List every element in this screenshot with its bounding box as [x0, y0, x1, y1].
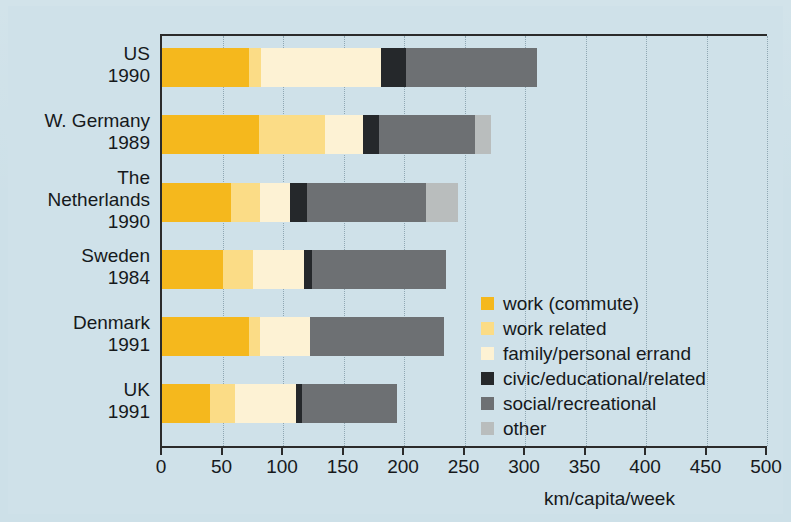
- bar-segment: [379, 115, 476, 154]
- legend-swatch: [481, 347, 494, 360]
- x-tick-label: 300: [508, 456, 540, 478]
- bar-segment: [302, 384, 396, 423]
- bar-segment: [307, 183, 426, 222]
- x-tick-label: 0: [156, 456, 167, 478]
- bar-segment: [249, 317, 260, 356]
- bar-segment: [260, 183, 290, 222]
- x-tick: [342, 446, 344, 455]
- bar-segment: [475, 115, 491, 154]
- legend-item: social/recreational: [481, 392, 706, 415]
- bar-segment: [363, 115, 379, 154]
- x-tick: [523, 446, 525, 455]
- x-tick: [584, 446, 586, 455]
- x-tick: [281, 446, 283, 455]
- x-tick: [160, 446, 162, 455]
- legend-swatch: [481, 322, 494, 335]
- x-tick-label: 150: [327, 456, 359, 478]
- bar-segment: [290, 183, 307, 222]
- legend-item: family/personal errand: [481, 342, 706, 365]
- bar-segment: [162, 115, 259, 154]
- bar-segment: [304, 250, 312, 289]
- bar-segment: [253, 250, 304, 289]
- x-tick: [644, 446, 646, 455]
- figure-page: US1990W. Germany1989TheNetherlands1990Sw…: [0, 0, 791, 522]
- x-tick-label: 500: [750, 456, 782, 478]
- category-label-line: Netherlands: [5, 189, 150, 211]
- x-tick-label: 50: [211, 456, 232, 478]
- chart-figure: US1990W. Germany1989TheNetherlands1990Sw…: [8, 6, 783, 514]
- bar-segment: [210, 384, 234, 423]
- x-tick-label: 200: [387, 456, 419, 478]
- category-label-line: 1990: [5, 65, 150, 87]
- bar-segment: [223, 250, 253, 289]
- x-tick-label: 400: [629, 456, 661, 478]
- bar-segment: [260, 317, 310, 356]
- category-label-line: 1990: [5, 211, 150, 233]
- category-label-line: 1991: [5, 401, 150, 423]
- category-label: W. Germany1989: [5, 110, 150, 154]
- x-tick: [221, 446, 223, 455]
- bar-segment: [162, 317, 249, 356]
- bar-segment: [426, 183, 459, 222]
- legend-label: other: [503, 418, 546, 440]
- category-label: US1990: [5, 43, 150, 87]
- legend-swatch: [481, 297, 494, 310]
- bar-segment: [162, 183, 231, 222]
- legend-item: work related: [481, 317, 706, 340]
- category-label-line: US: [5, 43, 150, 65]
- x-tick: [463, 446, 465, 455]
- bar-segment: [312, 250, 446, 289]
- legend-label: civic/educational/related: [503, 368, 706, 390]
- gridline-500: [767, 36, 769, 446]
- legend-label: family/personal errand: [503, 343, 691, 365]
- bar-segment: [261, 48, 381, 87]
- gridline-200: [404, 36, 406, 446]
- category-label-line: Denmark: [5, 312, 150, 334]
- x-tick-label: 250: [448, 456, 480, 478]
- legend-label: work (commute): [503, 293, 639, 315]
- legend: work (commute)work relatedfamily/persona…: [481, 292, 706, 440]
- bar-segment: [235, 384, 297, 423]
- category-label-line: 1991: [5, 334, 150, 356]
- bar-segment: [249, 48, 261, 87]
- bar-segment: [162, 48, 249, 87]
- bar-segment: [310, 317, 444, 356]
- x-tick-label: 450: [690, 456, 722, 478]
- legend-item: civic/educational/related: [481, 367, 706, 390]
- bar-segment: [162, 384, 210, 423]
- gridline-450: [707, 36, 709, 446]
- category-label-line: Sweden: [5, 245, 150, 267]
- category-label-line: 1989: [5, 132, 150, 154]
- bar-segment: [259, 115, 326, 154]
- bar-segment: [231, 183, 260, 222]
- category-label-line: The: [5, 167, 150, 189]
- category-label: UK1991: [5, 379, 150, 423]
- bar-segment: [381, 48, 406, 87]
- category-label: Denmark1991: [5, 312, 150, 356]
- legend-swatch: [481, 372, 494, 385]
- gridline-250: [465, 36, 467, 446]
- legend-label: social/recreational: [503, 393, 656, 415]
- category-label-line: UK: [5, 379, 150, 401]
- bar-segment: [325, 115, 363, 154]
- x-tick: [402, 446, 404, 455]
- x-tick: [705, 446, 707, 455]
- x-tick: [765, 446, 767, 455]
- category-label-line: W. Germany: [5, 110, 150, 132]
- x-axis-title: km/capita/week: [544, 488, 675, 510]
- legend-swatch: [481, 397, 494, 410]
- category-label: Sweden1984: [5, 245, 150, 289]
- legend-item: other: [481, 417, 706, 440]
- category-label-line: 1984: [5, 267, 150, 289]
- legend-item: work (commute): [481, 292, 706, 315]
- category-label: TheNetherlands1990: [5, 167, 150, 233]
- x-tick-label: 350: [569, 456, 601, 478]
- bar-segment: [406, 48, 537, 87]
- bar-segment: [162, 250, 223, 289]
- legend-swatch: [481, 422, 494, 435]
- x-tick-label: 100: [266, 456, 298, 478]
- legend-label: work related: [503, 318, 607, 340]
